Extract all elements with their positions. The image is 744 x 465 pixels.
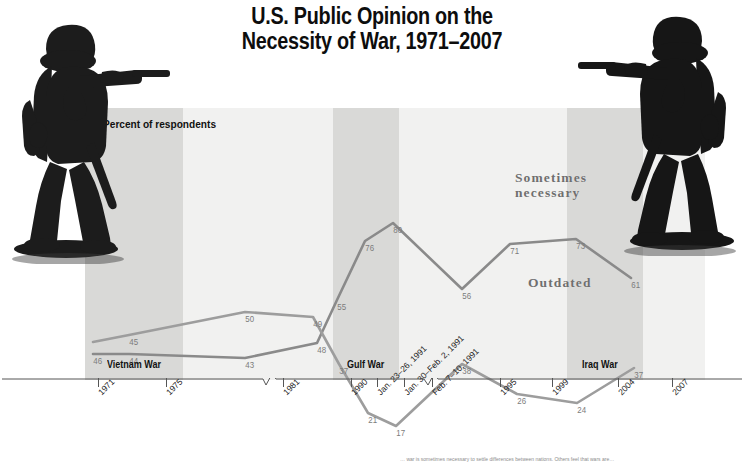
series-label-outdated: Outdated (528, 275, 592, 290)
point-sometimes-value: 56 (462, 291, 471, 301)
war-label-gulf: Gulf War (347, 359, 384, 370)
point-sometimes-value: 61 (631, 280, 640, 290)
point-sometimes-value: 55 (337, 302, 346, 312)
point-sometimes-value: 73 (576, 241, 585, 251)
point-sometimes-value: 71 (510, 246, 519, 256)
point-sometimes-value: 48 (317, 345, 326, 355)
war-label-vietnam: Vietnam War (107, 359, 161, 370)
point-sometimes-value: 80 (393, 225, 402, 235)
point-outdated-value: 49 (313, 319, 322, 329)
series-lines (85, 108, 705, 380)
point-sometimes-value: 76 (365, 243, 374, 253)
footer-caption: … war is sometimes necessary to settle d… (400, 456, 740, 464)
point-sometimes-value: 43 (245, 360, 254, 370)
chart-plot-area: Percent of respondents Vietnam War Gulf … (85, 108, 705, 380)
x-axis-labels: 1971197519811990Jan. 23–26, 1991Jan. 30–… (0, 390, 744, 464)
point-outdated-value: 50 (245, 314, 254, 324)
war-label-iraq: Iraq War (582, 359, 618, 370)
point-sometimes-value: 46 (93, 356, 102, 366)
y-axis-label: Percent of respondents (103, 118, 216, 130)
line-sometimes-necessary (93, 223, 631, 358)
title-line-1: U.S. Public Opinion on the (52, 4, 692, 29)
page-title: U.S. Public Opinion on the Necessity of … (0, 4, 744, 54)
series-label-sometimes-line1: Sometimes (515, 170, 587, 185)
series-label-sometimes-line2: necessary (515, 185, 587, 200)
title-line-2: Necessity of War, 1971–2007 (52, 29, 692, 54)
series-label-sometimes-necessary: Sometimes necessary (515, 170, 587, 200)
point-outdated-value: 45 (129, 337, 138, 347)
